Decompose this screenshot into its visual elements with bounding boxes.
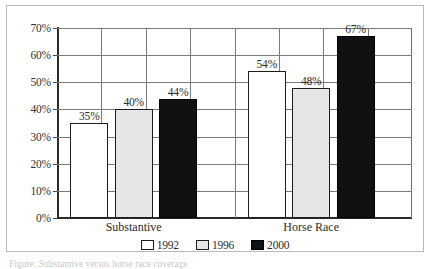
- y-axis-tick-label: 30%: [31, 131, 51, 143]
- bar-value-label: 40%: [123, 96, 143, 108]
- plot-area: 0%10%20%30%40%50%60%70% 35%40%44%54%48%6…: [57, 28, 412, 218]
- bar: 35%: [70, 123, 108, 218]
- y-axis-tick-mark: [53, 28, 57, 29]
- y-axis-tick-mark: [53, 55, 57, 56]
- legend-label: 1992: [157, 239, 179, 251]
- bar-value-label: 35%: [79, 110, 99, 122]
- y-axis-tick-mark: [53, 137, 57, 138]
- bar-value-label: 54%: [257, 58, 277, 70]
- plot-right-edge: [411, 28, 412, 218]
- black-square-icon: [251, 240, 264, 250]
- y-axis-tick-label: 0%: [36, 212, 51, 224]
- legend-item[interactable]: 1992: [141, 239, 179, 251]
- y-axis-tick-label: 20%: [31, 158, 51, 170]
- y-axis-tick-label: 10%: [31, 185, 51, 197]
- figure-page: 0%10%20%30%40%50%60%70% 35%40%44%54%48%6…: [0, 0, 431, 269]
- bar-value-label: 67%: [345, 23, 365, 35]
- legend-label: 1996: [212, 239, 234, 251]
- y-axis-tick-label: 50%: [31, 76, 51, 88]
- figure-caption: Figure: Substantive versus horse race co…: [9, 258, 424, 269]
- bar: 67%: [337, 36, 375, 218]
- bar: 48%: [292, 88, 330, 218]
- bar-value-label: 48%: [301, 75, 321, 87]
- white-square-icon: [141, 240, 154, 250]
- y-axis-tick-mark: [53, 191, 57, 192]
- vertical-separator: [235, 28, 236, 218]
- legend-item[interactable]: 1996: [196, 239, 234, 251]
- y-axis-tick-mark: [53, 164, 57, 165]
- y-axis-tick-mark: [53, 82, 57, 83]
- legend-item[interactable]: 2000: [251, 239, 289, 251]
- category-label: Substantive: [106, 220, 162, 235]
- category-label: Horse Race: [283, 220, 339, 235]
- y-axis-tick-label: 70%: [31, 22, 51, 34]
- y-axis-tick-mark: [53, 109, 57, 110]
- y-axis-tick-mark: [53, 218, 57, 219]
- bar: 54%: [248, 71, 286, 218]
- chart-legend: 199219962000: [7, 239, 423, 251]
- bar: 44%: [159, 99, 197, 218]
- figure-frame: 0%10%20%30%40%50%60%70% 35%40%44%54%48%6…: [6, 5, 424, 252]
- gray-square-icon: [196, 240, 209, 250]
- bar-value-label: 44%: [168, 86, 188, 98]
- bar: 40%: [115, 109, 153, 218]
- y-axis-tick-label: 40%: [31, 103, 51, 115]
- y-axis-tick-label: 60%: [31, 49, 51, 61]
- legend-label: 2000: [267, 239, 289, 251]
